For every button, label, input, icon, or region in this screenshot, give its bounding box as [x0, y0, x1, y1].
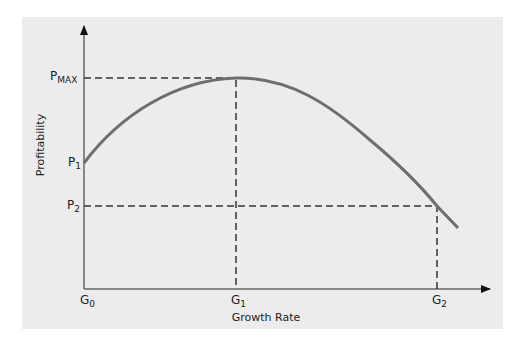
tick-label-pmax: PMAX	[50, 70, 77, 85]
y-axis-label: Profitability	[34, 114, 47, 176]
x-axis-label: Growth Rate	[232, 311, 301, 324]
tick-label-g0: G0	[80, 294, 95, 309]
tick-label-p2: P2	[67, 199, 80, 214]
tick-label-p1: P1	[68, 156, 81, 171]
tick-label-g2: G2	[432, 294, 447, 309]
chart-svg	[0, 0, 526, 345]
p2-reference-line	[84, 206, 437, 289]
tick-label-g1: G1	[231, 294, 246, 309]
pmax-reference-line	[84, 78, 236, 289]
